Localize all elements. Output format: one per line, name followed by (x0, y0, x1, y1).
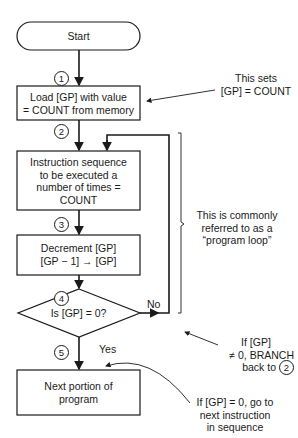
step-number-4: 4 (54, 291, 69, 306)
start-label: Start (17, 30, 140, 43)
annotation-branch-back: If [GP] ≠ 0, BRANCH back to 2 (212, 336, 294, 374)
step-number-1: 1 (54, 71, 69, 86)
step-number-5: 5 (54, 345, 69, 360)
step5-text: Next portion of program (17, 380, 140, 405)
step-number-3: 3 (54, 217, 69, 232)
step2-text: Instruction sequence to be executed a nu… (17, 156, 140, 206)
step-number-2: 2 (54, 124, 69, 139)
loop-bracket (178, 133, 184, 313)
yes-branch-label: Yes (99, 343, 116, 355)
no-branch-label: No (147, 298, 160, 310)
decision-text: Is [GP] = 0? (17, 307, 140, 320)
annotation-next-instruction: If [GP] = 0, go to next instruction in s… (188, 396, 282, 434)
branch-target-circle: 2 (279, 360, 294, 375)
step3-text: Decrement [GP] [GP − 1] → [GP] (17, 242, 140, 267)
annotation-sets-gp: This sets [GP] = COUNT (214, 72, 298, 97)
step1-text: Load [GP] with value = COUNT from memory (17, 91, 140, 116)
annotation-program-loop: This is commonly referred to as a “progr… (187, 209, 287, 247)
